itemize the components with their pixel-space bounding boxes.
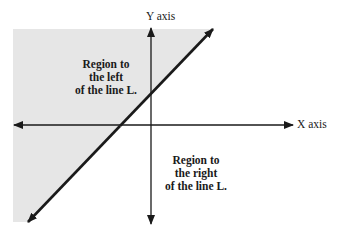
right-region-label-line-3: of the line L. bbox=[165, 180, 227, 193]
right-region-label: Region to the right of the line L. bbox=[165, 154, 227, 193]
left-region-label-line-1: Region to bbox=[75, 58, 137, 71]
left-region-label-line-3: of the line L. bbox=[75, 84, 137, 97]
x-axis-label: X axis bbox=[297, 118, 327, 131]
right-region-label-line-2: the right bbox=[165, 167, 227, 180]
left-region-label-line-2: the left bbox=[75, 71, 137, 84]
diagram-canvas: Y axis X axis Region to the left of the … bbox=[0, 0, 350, 237]
right-region-label-line-1: Region to bbox=[165, 154, 227, 167]
y-axis-label: Y axis bbox=[146, 10, 175, 23]
left-region-label: Region to the left of the line L. bbox=[75, 58, 137, 97]
